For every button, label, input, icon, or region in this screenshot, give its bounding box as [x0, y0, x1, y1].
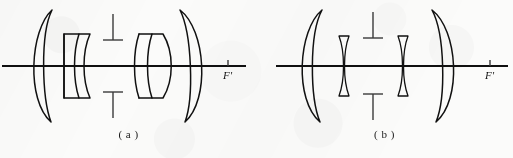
lens-diagram-panel-a: F' ( a ) — [0, 0, 257, 158]
panel-b-caption: ( b ) — [256, 128, 513, 140]
lens-diagram-panel-b: F' ( b ) — [256, 0, 513, 158]
panel-b-drawing: F' — [256, 0, 513, 128]
axis-label-f-prime: F' — [222, 69, 233, 81]
optical-figure: F' ( a ) F' — [0, 0, 513, 158]
panel-a-drawing: F' — [0, 0, 257, 128]
panel-a-caption: ( a ) — [0, 128, 257, 140]
axis-label-f-prime: F' — [484, 69, 495, 81]
